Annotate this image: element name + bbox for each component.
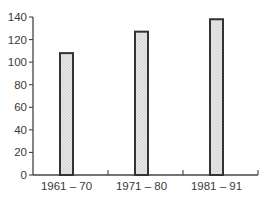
y-axis: 020406080100120140	[8, 11, 33, 181]
x-category-label: 1981 – 91	[191, 180, 242, 192]
bar	[210, 19, 223, 175]
bar	[60, 53, 73, 175]
y-tick-label: 140	[8, 11, 27, 23]
bar-chart: 020406080100120140 1961 – 701971 – 80198…	[0, 0, 271, 197]
y-tick-label: 80	[14, 79, 27, 91]
y-tick-label: 0	[21, 169, 27, 181]
y-tick-label: 60	[14, 101, 27, 113]
bar	[135, 32, 148, 175]
y-tick-label: 100	[8, 56, 27, 68]
x-category-label: 1961 – 70	[41, 180, 92, 192]
bars	[60, 19, 223, 175]
y-tick-label: 120	[8, 34, 27, 46]
y-tick-label: 40	[14, 124, 27, 136]
y-tick-label: 20	[14, 146, 27, 158]
x-category-label: 1971 – 80	[116, 180, 167, 192]
